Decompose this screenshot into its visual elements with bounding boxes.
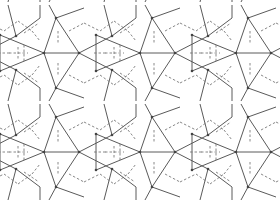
tiling-vertices [0, 0, 280, 201]
tiling-diagram [0, 0, 280, 201]
dual-dashed-edges [0, 0, 280, 201]
solid-tiling-edges [0, 0, 280, 201]
